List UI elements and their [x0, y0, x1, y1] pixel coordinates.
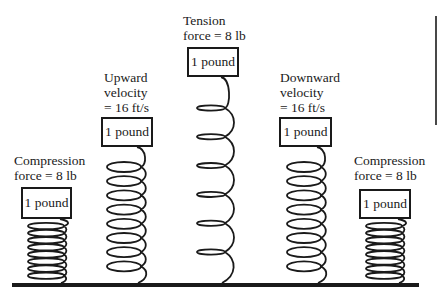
spring-coil: [107, 147, 146, 283]
label-compression-right: Compression force = 8 lb: [354, 153, 425, 183]
mass-label: 1 pound: [363, 196, 407, 212]
label-line: Compression: [354, 153, 425, 168]
spring-downward-velocity: [287, 147, 326, 283]
label-line: Tension: [183, 13, 246, 28]
label-compression-left: Compression force = 8 lb: [14, 153, 85, 183]
spring-coil: [197, 77, 234, 283]
mass-box-downward-velocity: 1 pound: [279, 117, 332, 147]
mass-box-tension: 1 pound: [187, 47, 239, 77]
spring-compression-left: [28, 219, 68, 283]
mass-box-upward-velocity: 1 pound: [101, 117, 153, 147]
label-line: Compression: [14, 153, 85, 168]
label-line: = 16 ft/s: [280, 100, 340, 115]
mass-label: 1 pound: [284, 124, 328, 140]
label-line: force = 8 lb: [14, 168, 85, 183]
mass-box-compression-right: 1 pound: [359, 189, 411, 219]
mass-label: 1 pound: [105, 124, 149, 140]
label-line: velocity: [280, 85, 340, 100]
spring-coil: [28, 219, 68, 283]
spring-compression-right: [366, 219, 406, 283]
spring-tension-center: [197, 77, 234, 283]
label-line: = 16 ft/s: [104, 100, 149, 115]
mass-label: 1 pound: [25, 195, 69, 211]
label-line: force = 8 lb: [183, 28, 246, 43]
spring-mass-diagram: [0, 0, 439, 302]
label-tension: Tension force = 8 lb: [183, 13, 246, 43]
spring-upward-velocity: [107, 147, 146, 283]
label-line: Downward: [280, 70, 340, 85]
mass-label: 1 pound: [191, 54, 235, 70]
spring-coil: [287, 147, 326, 283]
label-upward-velocity: Upward velocity = 16 ft/s: [104, 70, 149, 115]
label-line: force = 8 lb: [354, 168, 425, 183]
label-line: velocity: [104, 85, 149, 100]
mass-box-compression-left: 1 pound: [21, 187, 72, 219]
label-downward-velocity: Downward velocity = 16 ft/s: [280, 70, 340, 115]
spring-coil: [366, 219, 406, 283]
label-line: Upward: [104, 70, 149, 85]
